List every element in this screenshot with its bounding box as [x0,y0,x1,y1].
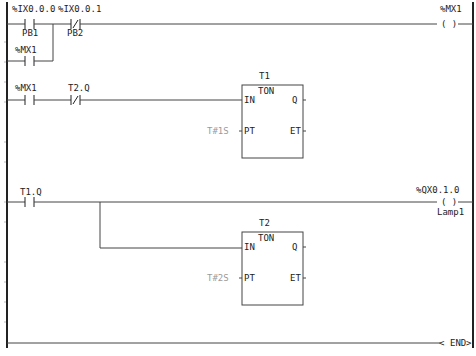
block-type: TON [258,86,274,96]
coil-comment: Lamp1 [437,207,464,217]
rung-1: %IX0.0.0 PB1 %IX0.0.1 PB2 %MX1 %MX1 [7,4,473,66]
ladder-diagram: %IX0.0.0 PB1 %IX0.0.1 PB2 %MX1 %MX1 [0,0,476,356]
pin-q: Q [292,242,297,252]
contact-address: T1.Q [20,187,42,197]
coil-icon[interactable]: ( ) [441,197,473,207]
contact-nc-icon[interactable] [60,19,437,29]
contact-address: %IX0.0.1 [58,4,101,14]
svg-text:>: > [466,338,472,348]
pin-pt: PT [244,273,255,283]
branch-contact-address: %MX1 [15,45,37,55]
end-rung: < END > [7,338,472,348]
timer-block-t1[interactable]: T1 TON IN Q PT ET [239,71,306,158]
timer-block-t2[interactable]: T2 TON IN Q PT ET [239,218,306,305]
svg-text:( ): ( ) [441,19,457,29]
contact-address: T2.Q [68,83,90,93]
rung-2: %MX1 T2.Q T1 TON IN Q PT ET T#1S [7,71,306,158]
svg-text:<: < [439,338,445,348]
svg-text:( ): ( ) [441,197,457,207]
coil-address: %MX1 [440,4,462,14]
pin-in: IN [244,95,255,105]
coil-address: %QX0.1.0 [416,185,459,195]
contact-nc-icon[interactable] [71,95,242,105]
pin-et: ET [290,273,301,283]
preset-value: T#2S [207,273,229,283]
block-instance: T1 [259,71,270,81]
contact-no-icon[interactable] [7,197,437,207]
contact-no-icon[interactable] [7,95,71,105]
pin-pt: PT [244,126,255,136]
contact-comment: PB2 [67,28,83,38]
block-type: TON [258,233,274,243]
preset-value: T#1S [207,126,229,136]
left-power-rail [4,2,7,348]
rung-3: T1.Q %QX0.1.0 ( ) Lamp1 T2 TON IN Q PT E… [7,185,473,305]
block-instance: T2 [259,218,270,228]
contact-comment: PB1 [22,28,38,38]
contact-address: %MX1 [15,83,37,93]
pin-in: IN [244,242,255,252]
end-label: END [450,338,466,348]
pin-et: ET [290,126,301,136]
contact-address: %IX0.0.0 [12,4,55,14]
pin-q: Q [292,95,297,105]
coil-icon[interactable]: ( ) [441,19,473,29]
